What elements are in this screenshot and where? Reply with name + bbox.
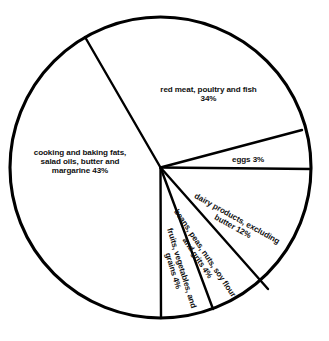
slice-label-cooking-baking-fats: cooking and baking fats, salad oils, but…: [16, 148, 144, 175]
slice-label-eggs: eggs 3%: [232, 155, 292, 164]
pie-chart: red meat, poultry and fish 34% cooking a…: [0, 0, 329, 341]
divider-eggs-dairy: [161, 168, 312, 170]
slice-label-red-meat-poultry-fish: red meat, poultry and fish 34%: [131, 85, 286, 103]
